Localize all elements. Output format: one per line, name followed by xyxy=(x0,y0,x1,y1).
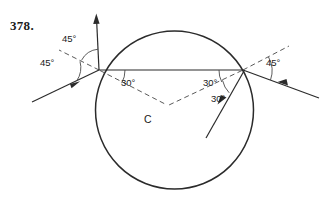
figure-canvas: 378. 45° 45° 30° 30° 30° 45° C xyxy=(0,0,324,208)
angle-label-left-upper: 45° xyxy=(62,33,76,44)
reflected-ray-arrowhead xyxy=(93,14,99,24)
problem-number: 378. xyxy=(10,18,34,34)
exit-ray xyxy=(243,70,319,98)
left-normal-dashed-line xyxy=(59,50,99,70)
incident-ray-arrowhead xyxy=(70,81,80,88)
angle-label-right-inner-upper: 30° xyxy=(203,77,217,88)
ray-diagram-svg xyxy=(0,0,324,208)
circle-center-label: C xyxy=(144,113,152,125)
angle-label-left-inner: 30° xyxy=(121,77,135,88)
incident-ray xyxy=(32,70,99,102)
reflected-ray xyxy=(97,18,100,70)
angle-arc-left-upper xyxy=(82,49,99,60)
angle-label-right-outer: 45° xyxy=(266,57,280,68)
angle-arc-right-inner-lower xyxy=(223,80,230,93)
angle-label-left-lower: 45° xyxy=(40,57,54,68)
angle-label-right-inner-lower: 30° xyxy=(211,93,225,104)
angle-arc-right-inner-upper xyxy=(219,70,222,82)
circle-boundary xyxy=(96,31,254,189)
angle-arc-left-lower xyxy=(77,61,81,81)
